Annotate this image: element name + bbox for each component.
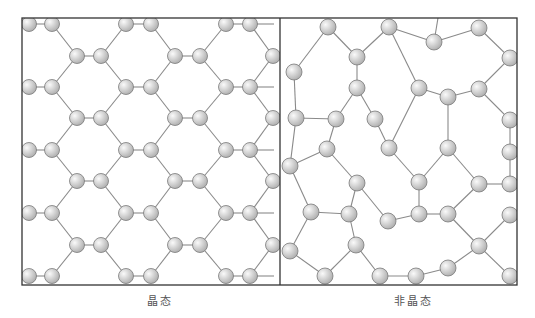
atom: [119, 143, 134, 158]
atom: [70, 238, 85, 253]
atom: [471, 238, 487, 254]
atom: [440, 260, 456, 276]
atom: [502, 207, 518, 223]
atom: [381, 19, 397, 35]
atom: [94, 49, 109, 64]
atom: [408, 268, 424, 284]
atom: [471, 176, 487, 192]
atom: [411, 80, 427, 96]
atom: [502, 50, 518, 66]
atom: [243, 206, 258, 221]
atom: [411, 206, 427, 222]
atom: [440, 206, 456, 222]
atom: [144, 17, 159, 32]
atom: [219, 206, 234, 221]
atom: [502, 176, 518, 192]
atom: [144, 80, 159, 95]
atom: [380, 213, 396, 229]
atom: [193, 174, 208, 189]
atom: [119, 80, 134, 95]
atom: [94, 174, 109, 189]
caption-crystalline: 晶态: [147, 292, 173, 308]
atom: [70, 49, 85, 64]
atom: [372, 268, 388, 284]
amorphous-panel: [282, 18, 518, 284]
atom: [45, 17, 60, 32]
atom: [219, 80, 234, 95]
atom: [219, 143, 234, 158]
atom: [168, 111, 183, 126]
atom: [282, 158, 298, 174]
atom: [243, 17, 258, 32]
atom: [219, 17, 234, 32]
atom: [341, 206, 357, 222]
crystal-vs-amorphous-diagram: 晶态 非晶态: [0, 0, 535, 318]
atom: [243, 269, 258, 284]
atom: [45, 80, 60, 95]
atom: [367, 111, 383, 127]
atom: [303, 204, 319, 220]
atom: [286, 64, 302, 80]
atom: [45, 269, 60, 284]
atom: [266, 49, 281, 64]
atom: [502, 112, 518, 128]
atom: [349, 80, 365, 96]
atom: [266, 174, 281, 189]
atom: [168, 238, 183, 253]
atom: [348, 237, 364, 253]
atom: [168, 49, 183, 64]
atom: [22, 80, 37, 95]
atom: [94, 111, 109, 126]
atom: [193, 49, 208, 64]
atom: [45, 206, 60, 221]
atom: [144, 206, 159, 221]
atom: [193, 238, 208, 253]
atom: [22, 17, 37, 32]
atom: [411, 174, 427, 190]
atom: [288, 110, 304, 126]
atom: [282, 243, 298, 259]
atom: [426, 34, 442, 50]
atom: [119, 269, 134, 284]
atom: [471, 81, 487, 97]
atom: [45, 143, 60, 158]
atom: [70, 111, 85, 126]
amorphous-atoms: [282, 19, 518, 284]
atom: [349, 49, 365, 65]
atom: [502, 144, 518, 160]
crystalline-panel: [22, 17, 281, 284]
atom: [219, 269, 234, 284]
atom: [243, 80, 258, 95]
atom: [70, 174, 85, 189]
atom: [144, 143, 159, 158]
atom: [349, 175, 365, 191]
atom: [328, 111, 344, 127]
atom: [94, 238, 109, 253]
atom: [193, 111, 208, 126]
atom: [168, 174, 183, 189]
atom: [440, 140, 456, 156]
atom: [266, 238, 281, 253]
atom: [119, 206, 134, 221]
atom: [144, 269, 159, 284]
atom: [243, 143, 258, 158]
atom: [266, 111, 281, 126]
atom: [381, 140, 397, 156]
atom: [319, 141, 335, 157]
atom: [320, 19, 336, 35]
atom: [22, 269, 37, 284]
lattice-canvas: [0, 0, 535, 318]
atom: [317, 268, 333, 284]
atom: [119, 17, 134, 32]
atom: [502, 268, 518, 284]
atom: [471, 20, 487, 36]
atom: [22, 143, 37, 158]
caption-amorphous: 非晶态: [394, 292, 433, 308]
atom: [440, 89, 456, 105]
atom: [22, 206, 37, 221]
